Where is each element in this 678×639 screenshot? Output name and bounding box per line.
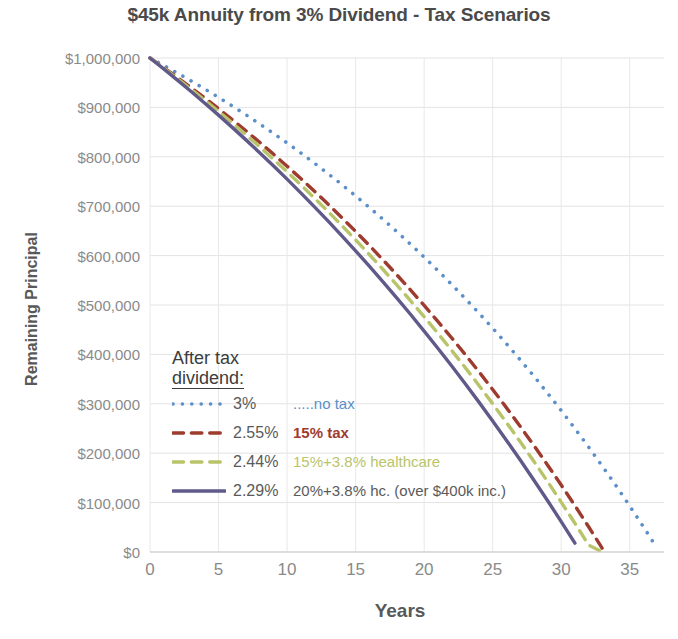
- legend-item-2[interactable]: 2.44%15%+3.8% healthcare: [172, 447, 572, 476]
- y-tick-label: $800,000: [24, 148, 150, 165]
- y-tick-label: $300,000: [24, 395, 150, 412]
- x-tick-label: 0: [145, 560, 154, 580]
- x-tick-label: 20: [415, 560, 434, 580]
- legend-item-1[interactable]: 2.55%15% tax: [172, 418, 572, 447]
- y-tick-label: $1,000,000: [24, 50, 150, 67]
- legend-rows: 3%.....no tax2.55%15% tax2.44%15%+3.8% h…: [172, 389, 572, 505]
- y-tick-label: $400,000: [24, 346, 150, 363]
- legend-rate-2: 2.44%: [233, 453, 285, 471]
- legend-title-line2: dividend:: [172, 368, 244, 389]
- chart-title: $45k Annuity from 3% Dividend - Tax Scen…: [0, 4, 678, 26]
- y-tick-label: $500,000: [24, 297, 150, 314]
- x-axis-title: Years: [150, 600, 650, 622]
- x-tick-label: 25: [483, 560, 502, 580]
- legend-label-2: 15%+3.8% healthcare: [293, 453, 440, 470]
- legend-item-3[interactable]: 2.29%20%+3.8% hc. (over $400k inc.): [172, 476, 572, 505]
- legend-rate-3: 2.29%: [233, 482, 285, 500]
- legend-swatch-dotted-icon: [172, 397, 226, 411]
- legend-label-1: 15% tax: [293, 424, 349, 441]
- x-tick-label: 5: [214, 560, 223, 580]
- legend-label-3: 20%+3.8% hc. (over $400k inc.): [293, 482, 506, 499]
- y-tick-label: $200,000: [24, 445, 150, 462]
- legend-title: After tax dividend:: [172, 348, 572, 389]
- legend-title-line1: After tax: [172, 348, 572, 368]
- x-tick-label: 10: [278, 560, 297, 580]
- legend-swatch-dashed-icon: [172, 426, 226, 440]
- legend-swatch-solid-icon: [172, 484, 226, 498]
- legend-label-0: .....no tax: [293, 395, 355, 412]
- y-tick-label: $0: [24, 544, 150, 561]
- x-tick-label: 35: [620, 560, 639, 580]
- chart-root: $45k Annuity from 3% Dividend - Tax Scen…: [0, 0, 678, 639]
- x-tick-label: 30: [552, 560, 571, 580]
- x-tick-label: 15: [346, 560, 365, 580]
- y-tick-label: $600,000: [24, 247, 150, 264]
- legend-rate-1: 2.55%: [233, 424, 285, 442]
- y-tick-label: $100,000: [24, 494, 150, 511]
- y-tick-label: $900,000: [24, 99, 150, 116]
- legend-rate-0: 3%: [233, 395, 285, 413]
- y-tick-label: $700,000: [24, 198, 150, 215]
- legend-swatch-dashed-icon: [172, 455, 226, 469]
- legend-item-0[interactable]: 3%.....no tax: [172, 389, 572, 418]
- legend: After tax dividend: 3%.....no tax2.55%15…: [172, 348, 572, 505]
